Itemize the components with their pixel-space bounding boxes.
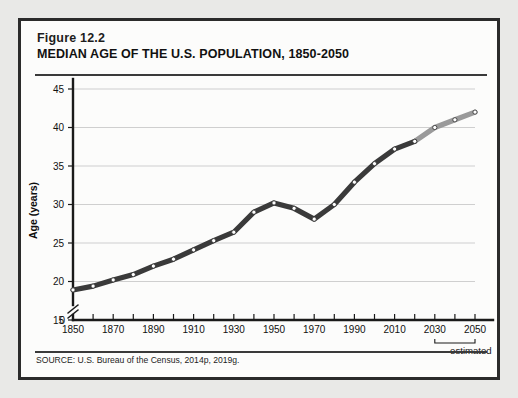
x-tick-label-1850: 1850 [62,324,85,335]
data-point-marker [433,125,437,129]
data-point-marker [473,110,477,114]
data-point-marker [111,278,115,282]
estimated-bracket [435,339,475,343]
data-point-marker [413,139,417,143]
data-point-marker [171,257,175,261]
y-tick-label-30: 30 [53,199,65,210]
data-point-marker [252,210,256,214]
data-point-marker [292,206,296,210]
data-point-marker [272,201,276,205]
y-tick-label-35: 35 [53,161,65,172]
series-line-projected [415,112,475,141]
x-tick-label-1930: 1930 [223,324,246,335]
data-point-marker [192,248,196,252]
figure-card: Figure 12.2 MEDIAN AGE OF THE U.S. POPUL… [18,18,500,380]
y-tick-label-40: 40 [53,122,65,133]
data-point-marker [312,217,316,221]
data-point-marker [332,202,336,206]
y-axis-title: Age (years) [27,182,39,239]
data-point-marker [372,162,376,166]
data-point-marker [71,288,75,292]
y-tick-label-25: 25 [53,238,65,249]
data-point-marker [352,180,356,184]
y-tick-label-20: 20 [53,276,65,287]
x-tick-label-2030: 2030 [424,324,447,335]
data-point-marker [232,230,236,234]
x-tick-label-1910: 1910 [182,324,205,335]
x-tick-label-1950: 1950 [263,324,286,335]
data-point-marker [91,284,95,288]
figure-inner: Figure 12.2 MEDIAN AGE OF THE U.S. POPUL… [21,21,497,377]
x-tick-label-1990: 1990 [343,324,366,335]
data-point-marker [453,118,457,122]
data-point-marker [212,239,216,243]
data-point-marker [151,264,155,268]
x-tick-label-1870: 1870 [102,324,125,335]
x-tick-label-2050: 2050 [464,324,487,335]
y-tick-label-45: 45 [53,84,65,95]
series-line-observed [73,141,415,290]
source-divider [35,351,487,353]
x-tick-label-1970: 1970 [303,324,326,335]
data-point-marker [393,147,397,151]
x-tick-label-2010: 2010 [383,324,406,335]
x-tick-label-1890: 1890 [142,324,165,335]
data-point-marker [131,272,135,276]
source-note: SOURCE: U.S. Bureau of the Census, 2014p… [36,355,240,365]
chart-plot-area: 0152025303540451850187018901910193019501… [21,21,503,383]
line-chart: 0152025303540451850187018901910193019501… [21,21,503,383]
